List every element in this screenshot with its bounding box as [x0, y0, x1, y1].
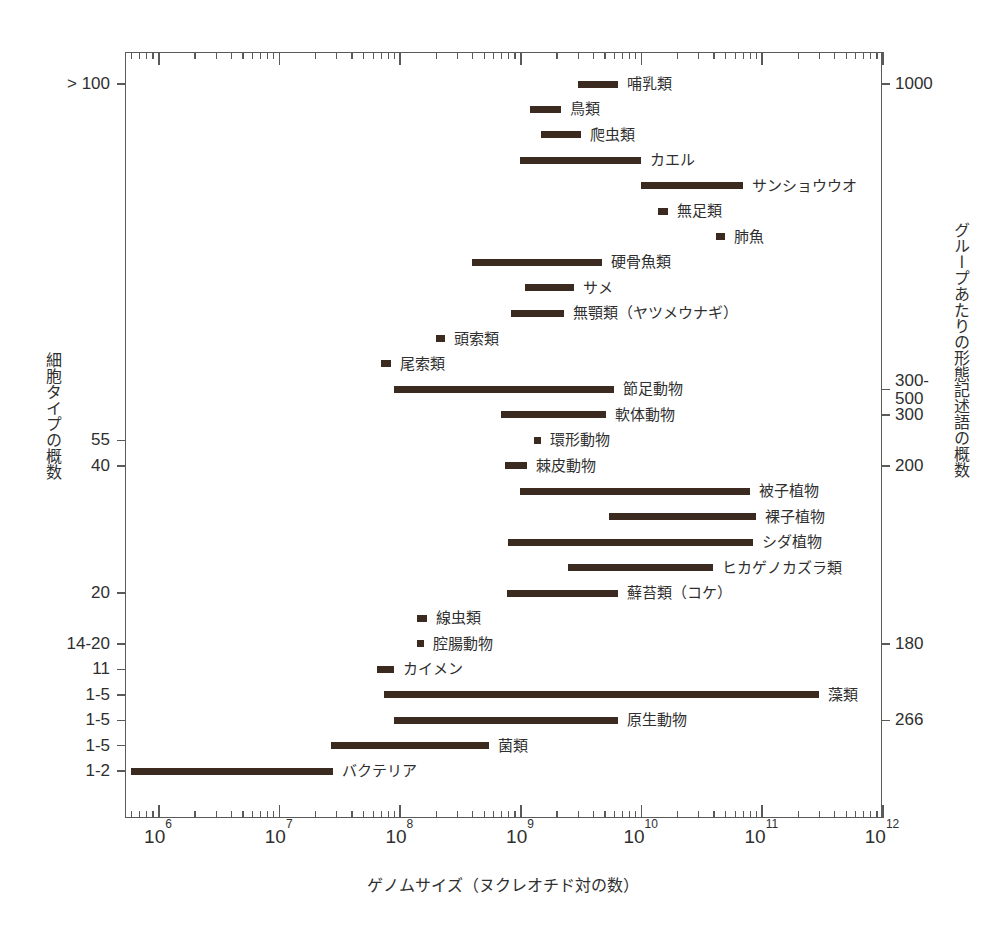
range-bar: [381, 360, 391, 367]
x-axis-minor-tick: [855, 52, 856, 59]
x-axis-minor-tick: [139, 52, 140, 59]
range-bar: [568, 564, 713, 571]
x-axis-minor-tick: [855, 811, 856, 818]
x-axis-minor-tick: [846, 811, 847, 818]
x-axis-minor-tick: [698, 52, 699, 59]
x-axis-minor-tick: [713, 52, 714, 59]
x-axis-major-tick: [279, 805, 281, 818]
x-axis-minor-tick: [501, 52, 502, 59]
bar-label: 肺魚: [734, 229, 764, 244]
plot-area: [125, 52, 882, 818]
x-axis-minor-tick: [614, 811, 615, 818]
x-axis-minor-tick: [260, 52, 261, 59]
x-axis-tick-label: 109: [506, 826, 534, 846]
bar-label: 頭索類: [454, 331, 499, 346]
x-axis-minor-tick: [614, 52, 615, 59]
x-axis-minor-tick: [436, 811, 437, 818]
x-axis-major-tick: [882, 52, 884, 65]
bar-label: サメ: [583, 280, 613, 295]
y-axis-left-tick: [117, 440, 126, 442]
x-axis-minor-tick: [472, 52, 473, 59]
y-axis-left-label: 1-2: [0, 762, 110, 779]
x-axis-minor-tick: [472, 811, 473, 818]
x-axis-minor-tick: [629, 52, 630, 59]
x-axis-minor-tick: [336, 811, 337, 818]
x-axis-minor-tick: [556, 52, 557, 59]
x-axis-minor-tick: [194, 811, 195, 818]
y-axis-right-tick: [881, 414, 890, 416]
x-axis-minor-tick: [622, 52, 623, 59]
x-axis-minor-tick: [635, 52, 636, 59]
x-axis-minor-tick: [336, 52, 337, 59]
x-axis-minor-tick: [819, 811, 820, 818]
x-axis-minor-tick: [457, 52, 458, 59]
bar-label: 無足類: [677, 203, 722, 218]
x-axis-major-tick: [158, 805, 160, 818]
bar-label: サンショウウオ: [752, 178, 857, 193]
y-axis-left-label: 1-5: [0, 737, 110, 754]
x-axis-minor-tick: [394, 811, 395, 818]
bar-label: 蘚苔類（コケ）: [627, 585, 732, 600]
x-axis-tick-label: 1011: [745, 826, 779, 846]
y-axis-left-tick: [117, 669, 126, 671]
y-axis-left-label: > 100: [0, 75, 110, 92]
x-axis-minor-tick: [508, 811, 509, 818]
y-axis-left-tick: [117, 745, 126, 747]
x-axis-minor-tick: [493, 811, 494, 818]
range-bar: [508, 539, 753, 546]
range-bar: [525, 284, 574, 291]
range-bar: [534, 437, 541, 444]
x-axis-minor-tick: [260, 811, 261, 818]
range-bar: [520, 488, 750, 495]
bar-label: カエル: [650, 152, 695, 167]
x-axis-title: ゲノムサイズ（ヌクレオチド対の数）: [0, 872, 1006, 896]
x-axis-top-ticks: [0, 52, 1006, 66]
y-axis-left-label: 1-5: [0, 686, 110, 703]
x-axis-minor-tick: [273, 52, 274, 59]
x-axis-tick-label: 1012: [865, 826, 900, 846]
y-axis-left-label: 20: [0, 584, 110, 601]
y-axis-left-tick: [117, 694, 126, 696]
x-axis-minor-tick: [556, 811, 557, 818]
bar-label: カイメン: [403, 661, 463, 676]
bar-label: 腔腸動物: [433, 636, 493, 651]
y-axis-right-label: 300: [895, 406, 923, 423]
x-axis-minor-tick: [514, 52, 515, 59]
x-axis-minor-tick: [578, 811, 579, 818]
range-bar: [331, 742, 489, 749]
y-axis-left-tick: [117, 465, 126, 467]
range-bar: [417, 615, 427, 622]
bar-label: シダ植物: [762, 534, 822, 549]
y-axis-right-label: 180: [895, 635, 923, 652]
range-bar: [530, 106, 562, 113]
x-axis-minor-tick: [819, 52, 820, 59]
x-axis-minor-tick: [381, 52, 382, 59]
x-axis-minor-tick: [593, 52, 594, 59]
bar-label: 節足動物: [623, 381, 683, 396]
x-axis-minor-tick: [578, 52, 579, 59]
bar-label: 鳥類: [570, 101, 600, 116]
y-axis-left-label: 14-20: [0, 635, 110, 652]
y-axis-left-tick: [117, 592, 126, 594]
x-axis-minor-tick: [252, 811, 253, 818]
range-bar: [417, 640, 424, 647]
bar-label: 裸子植物: [765, 509, 825, 524]
x-axis-major-tick: [641, 805, 643, 818]
range-bar: [501, 411, 606, 418]
bar-label: 無顎類（ヤツメウナギ）: [573, 305, 738, 320]
x-axis-minor-tick: [876, 811, 877, 818]
x-axis-major-tick: [399, 52, 401, 65]
x-axis-minor-tick: [146, 52, 147, 59]
x-axis-minor-tick: [194, 52, 195, 59]
x-axis-minor-tick: [743, 52, 744, 59]
range-bar: [394, 386, 614, 393]
x-axis-minor-tick: [381, 811, 382, 818]
x-axis-minor-tick: [798, 811, 799, 818]
bar-label: 棘皮動物: [536, 458, 596, 473]
y-axis-left-tick: [117, 720, 126, 722]
x-axis-minor-tick: [394, 52, 395, 59]
y-axis-left-tick: [117, 770, 126, 772]
range-bar: [609, 513, 755, 520]
range-bar: [394, 717, 618, 724]
x-axis-minor-tick: [677, 52, 678, 59]
